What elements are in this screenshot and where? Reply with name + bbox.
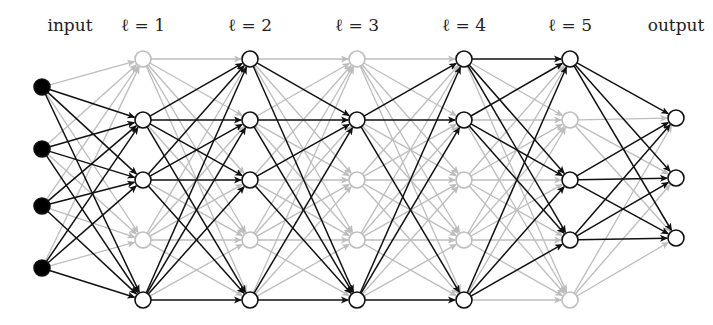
input-neuron: [34, 79, 50, 95]
active-neuron: [456, 292, 472, 308]
active-neuron: [562, 172, 578, 188]
input-neuron: [34, 198, 50, 214]
active-connection: [48, 126, 136, 201]
label-layer-5: ℓ = 5: [548, 15, 592, 35]
dropped-neuron: [135, 232, 151, 248]
active-neuron: [562, 51, 578, 67]
input-neuron: [34, 260, 50, 276]
active-neuron: [668, 170, 684, 186]
active-neuron: [242, 292, 258, 308]
dropped-neuron: [562, 112, 578, 128]
label-input: input: [47, 15, 92, 35]
active-neuron: [242, 112, 258, 128]
dropped-connection: [577, 243, 668, 296]
active-neuron: [242, 172, 258, 188]
active-neuron: [135, 292, 151, 308]
active-connection: [574, 66, 671, 230]
label-output: output: [648, 15, 705, 35]
active-neuron: [562, 232, 578, 248]
label-layer-4: ℓ = 4: [442, 15, 486, 35]
active-connection: [577, 63, 668, 114]
active-neuron: [456, 51, 472, 67]
active-connection: [50, 182, 135, 204]
active-connection: [50, 122, 135, 146]
active-neuron: [349, 292, 365, 308]
active-neuron: [349, 112, 365, 128]
dropped-neuron: [349, 232, 365, 248]
dropped-neuron: [349, 172, 365, 188]
dropped-neuron: [562, 292, 578, 308]
label-layer-3: ℓ = 3: [335, 15, 379, 35]
active-neuron: [668, 230, 684, 246]
input-neuron: [34, 141, 50, 157]
layer-labels: input ℓ = 1 ℓ = 2 ℓ = 3 ℓ = 4 ℓ = 5 outp…: [47, 15, 704, 35]
active-neuron: [135, 172, 151, 188]
active-neuron: [242, 51, 258, 67]
active-connection: [50, 270, 135, 297]
label-layer-1: ℓ = 1: [121, 15, 165, 35]
active-connection: [47, 127, 138, 261]
label-layer-2: ℓ = 2: [228, 15, 272, 35]
active-neuron: [456, 112, 472, 128]
dropped-neuron: [456, 232, 472, 248]
dropped-neuron: [349, 51, 365, 67]
active-neuron: [668, 110, 684, 126]
dropped-neuron: [135, 51, 151, 67]
dropped-connection: [50, 61, 135, 84]
active-connection: [578, 238, 667, 240]
neural-network-diagram: input ℓ = 1 ℓ = 2 ℓ = 3 ℓ = 4 ℓ = 5 outp…: [0, 0, 713, 325]
dropped-neuron: [242, 232, 258, 248]
active-neuron: [135, 112, 151, 128]
dropped-neuron: [456, 172, 472, 188]
